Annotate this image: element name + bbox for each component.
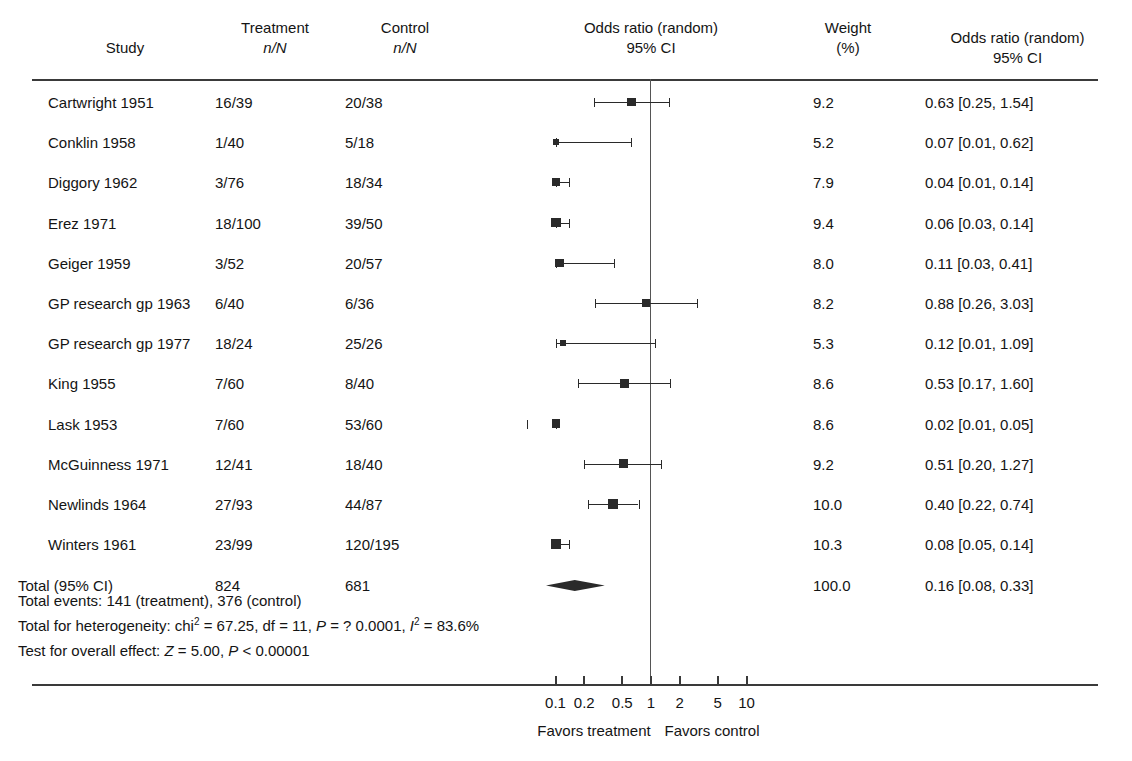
control-count: 20/57 <box>345 255 455 273</box>
odds-ratio-value: 0.63 [0.25, 1.54] <box>925 94 1115 112</box>
overall-z-symbol: Z <box>164 642 173 659</box>
control-count: 18/34 <box>345 174 455 192</box>
heterogeneity-i-value: = 83.6% <box>420 617 480 634</box>
header-weight: Weight (%) <box>798 18 898 58</box>
ci-cap-upper <box>669 98 670 107</box>
header-treatment-line1: Treatment <box>241 19 309 36</box>
axis-caption-right: Favors control <box>664 722 759 740</box>
confidence-interval-line <box>556 263 614 264</box>
ci-cap-lower <box>578 379 579 388</box>
ci-cap-upper <box>639 500 640 509</box>
total-events-text: Total events: 141 (treatment), 376 (cont… <box>18 592 301 610</box>
axis-caption-left-label: Favors treatment <box>537 722 650 739</box>
treatment-count: 12/41 <box>215 456 325 474</box>
header-control-line1: Control <box>381 19 429 36</box>
header-odds-ratio-line2: 95% CI <box>910 48 1125 68</box>
heterogeneity-middle: = 67.25, df = 11, <box>200 617 316 634</box>
ci-cap-upper <box>655 339 656 348</box>
ci-cap-upper <box>670 379 671 388</box>
header-study-label: Study <box>45 38 205 58</box>
ci-cap-lower <box>588 500 589 509</box>
axis-tick <box>650 676 652 685</box>
effect-size-marker <box>555 259 563 267</box>
overall-p-symbol: P <box>228 642 238 659</box>
study-name: GP research gp 1963 <box>48 295 190 313</box>
treatment-count: 18/100 <box>215 215 325 233</box>
odds-ratio-value: 0.11 [0.03, 0.41] <box>925 255 1115 273</box>
control-count: 681 <box>345 577 455 595</box>
confidence-interval-line <box>556 142 631 143</box>
study-name: Geiger 1959 <box>48 255 131 273</box>
treatment-count: 1/40 <box>215 134 325 152</box>
total-events-label: Total events: 141 (treatment), 376 (cont… <box>18 592 301 609</box>
odds-ratio-value: 0.12 [0.01, 1.09] <box>925 335 1115 353</box>
weight-value: 9.2 <box>813 456 883 474</box>
odds-ratio-value: 0.88 [0.26, 3.03] <box>925 295 1115 313</box>
weight-value: 10.3 <box>813 536 883 554</box>
axis-tick-label: 5 <box>714 694 722 712</box>
axis-tick-label: 0.1 <box>545 694 566 712</box>
effect-size-marker <box>642 299 650 307</box>
effect-size-marker <box>552 178 560 186</box>
pooled-estimate-diamond <box>544 578 607 593</box>
effect-size-marker <box>551 539 561 549</box>
ci-cap-upper <box>527 420 528 429</box>
weight-value: 7.9 <box>813 174 883 192</box>
overall-p-value: < 0.00001 <box>238 642 309 659</box>
effect-size-marker <box>552 419 561 428</box>
header-weight-line2: (%) <box>798 38 898 58</box>
axis-caption-right-label: Favors control <box>664 722 759 739</box>
weight-value: 100.0 <box>813 577 883 595</box>
weight-value: 5.3 <box>813 335 883 353</box>
odds-ratio-value: 0.08 [0.05, 0.14] <box>925 536 1115 554</box>
header-plot: Odds ratio (random) 95% CI <box>521 18 781 58</box>
study-name: Lask 1953 <box>48 416 117 434</box>
study-name: Diggory 1962 <box>48 174 137 192</box>
axis-tick <box>679 676 681 685</box>
study-name: McGuinness 1971 <box>48 456 169 474</box>
header-study: Study <box>45 38 205 58</box>
weight-value: 9.2 <box>813 94 883 112</box>
study-name: GP research gp 1977 <box>48 335 190 353</box>
confidence-interval-line <box>556 343 655 344</box>
header-odds-ratio-line1: Odds ratio (random) <box>950 29 1084 46</box>
ci-cap-upper <box>569 540 570 549</box>
odds-ratio-value: 0.07 [0.01, 0.62] <box>925 134 1115 152</box>
overall-middle: = 5.00, <box>174 642 229 659</box>
control-count: 6/36 <box>345 295 455 313</box>
weight-value: 8.6 <box>813 375 883 393</box>
odds-ratio-value: 0.40 [0.22, 0.74] <box>925 496 1115 514</box>
effect-size-marker <box>620 379 629 388</box>
ci-cap-upper <box>614 259 615 268</box>
ci-cap-lower <box>556 339 557 348</box>
heterogeneity-prefix: Total for heterogeneity: chi <box>18 617 194 634</box>
treatment-count: 16/39 <box>215 94 325 112</box>
odds-ratio-value: 0.06 [0.03, 0.14] <box>925 215 1115 233</box>
weight-value: 10.0 <box>813 496 883 514</box>
axis-tick-label: 10 <box>738 694 755 712</box>
control-count: 44/87 <box>345 496 455 514</box>
weight-value: 9.4 <box>813 215 883 233</box>
effect-size-marker <box>619 459 628 468</box>
effect-size-marker <box>553 139 559 145</box>
overall-effect-text: Test for overall effect: Z = 5.00, P < 0… <box>18 642 310 660</box>
odds-ratio-value: 0.53 [0.17, 1.60] <box>925 375 1115 393</box>
control-count: 18/40 <box>345 456 455 474</box>
odds-ratio-value: 0.51 [0.20, 1.27] <box>925 456 1115 474</box>
effect-size-marker <box>608 499 617 508</box>
axis-tick-label: 1 <box>647 694 655 712</box>
effect-size-marker <box>560 340 566 346</box>
weight-value: 8.0 <box>813 255 883 273</box>
ci-cap-upper <box>569 219 570 228</box>
axis-caption-left: Favors treatment <box>537 722 650 740</box>
axis-tick-label: 0.5 <box>612 694 633 712</box>
weight-value: 8.6 <box>813 416 883 434</box>
ci-cap-upper <box>697 299 698 308</box>
header-odds-ratio: Odds ratio (random) 95% CI <box>910 28 1125 68</box>
study-name: Cartwright 1951 <box>48 94 154 112</box>
axis-tick-label: 0.2 <box>574 694 595 712</box>
treatment-count: 23/99 <box>215 536 325 554</box>
effect-size-marker <box>627 98 636 107</box>
header-control: Control n/N <box>345 18 465 58</box>
overall-prefix: Test for overall effect: <box>18 642 164 659</box>
